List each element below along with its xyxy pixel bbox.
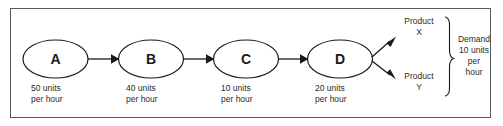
- arrow-b-to-c: [184, 54, 215, 64]
- node-d-capacity-line1: 20 units: [315, 83, 345, 93]
- demand-line3: per: [468, 56, 480, 66]
- arrow-c-to-d: [279, 54, 309, 64]
- brace-shape: [446, 17, 454, 96]
- output-product-x: Product X: [404, 16, 434, 37]
- product-x-line1: Product: [404, 16, 434, 26]
- node-b-capacity-line2: per hour: [126, 94, 158, 104]
- node-a[interactable]: A 50 units per hour: [23, 40, 88, 104]
- node-d-capacity-line2: per hour: [315, 94, 347, 104]
- node-a-label: A: [50, 51, 60, 67]
- node-d[interactable]: D 20 units per hour: [308, 40, 373, 104]
- arrow-d-to-product-y-line: [372, 61, 390, 75]
- demand-line4: hour: [465, 67, 482, 77]
- demand-label: Demand 10 units per hour: [458, 34, 490, 77]
- node-c-label: C: [241, 51, 251, 67]
- node-d-label: D: [335, 51, 345, 67]
- diagram-canvas: A 50 units per hour B 40 units per hour …: [0, 0, 503, 126]
- product-y-line1: Product: [404, 71, 434, 81]
- node-a-capacity-line2: per hour: [31, 94, 63, 104]
- product-y-line2: Y: [416, 82, 422, 92]
- node-c-capacity-line1: 10 units: [221, 83, 251, 93]
- arrow-a-to-b: [88, 54, 120, 64]
- node-c[interactable]: C 10 units per hour: [214, 40, 279, 104]
- demand-line2: 10 units: [459, 45, 489, 55]
- demand-brace-icon: [446, 17, 454, 96]
- node-a-capacity-line1: 50 units: [31, 83, 61, 93]
- process-flow-diagram: A 50 units per hour B 40 units per hour …: [0, 0, 503, 126]
- output-product-y: Product Y: [404, 71, 434, 92]
- arrow-d-to-product-y: [372, 61, 396, 80]
- node-b-label: B: [146, 51, 156, 67]
- node-b[interactable]: B 40 units per hour: [119, 40, 184, 104]
- arrow-d-to-product-x: [372, 37, 396, 58]
- node-c-capacity-line2: per hour: [221, 94, 253, 104]
- node-b-capacity-line1: 40 units: [126, 83, 156, 93]
- demand-line1: Demand: [458, 34, 490, 44]
- arrow-d-to-product-x-head: [387, 37, 396, 47]
- product-x-line2: X: [416, 27, 422, 37]
